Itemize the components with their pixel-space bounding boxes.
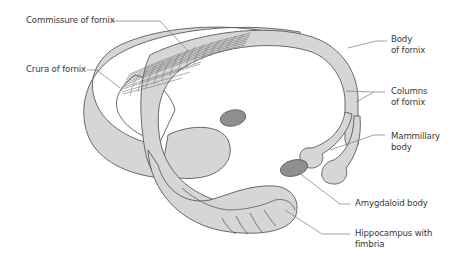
- label-line-2: of fornix: [391, 97, 427, 108]
- label-text: Amygdaloid body: [355, 198, 428, 209]
- label-text: Commissure of fornix: [26, 15, 115, 26]
- label-line-1: Columns: [391, 86, 427, 97]
- label-line-2: body: [391, 142, 440, 153]
- label-body-of-fornix: Body of fornix: [391, 34, 425, 56]
- label-line-2: of fornix: [391, 45, 425, 56]
- label-crura-of-fornix: Crura of fornix: [26, 64, 86, 75]
- label-line-1: Body: [391, 34, 425, 45]
- label-hippocampus-with-fimbria: Hippocampus with fimbria: [355, 228, 432, 250]
- label-columns-of-fornix: Columns of fornix: [391, 86, 427, 108]
- leader-columns-2: [356, 92, 374, 102]
- label-line-1: Hippocampus with: [355, 228, 432, 239]
- label-amygdaloid-body: Amygdaloid body: [355, 198, 428, 209]
- label-line-1: Mammillary: [391, 131, 440, 142]
- leader-body: [348, 41, 387, 48]
- label-mammillary-body: Mammillary body: [391, 131, 440, 153]
- label-commissure-of-fornix: Commissure of fornix: [26, 15, 115, 26]
- dark-oval-upper: [219, 107, 248, 128]
- label-text: Crura of fornix: [26, 64, 86, 75]
- label-line-2: fimbria: [355, 239, 432, 250]
